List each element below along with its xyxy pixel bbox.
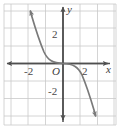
graph-figure: -2 2 2 -2 O x y bbox=[0, 0, 119, 129]
grid-lines bbox=[4, 4, 116, 125]
axes bbox=[7, 7, 110, 122]
coordinate-plane bbox=[0, 0, 119, 129]
